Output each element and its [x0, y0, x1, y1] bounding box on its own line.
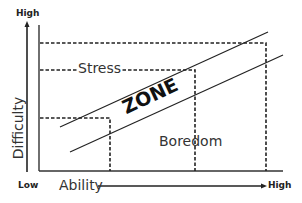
low-level-guide — [40, 118, 110, 171]
y-axis-high-label: High — [16, 8, 39, 18]
x-axis-arrow — [98, 184, 267, 189]
x-axis-high-label: High — [268, 180, 291, 190]
high-level-guide — [40, 43, 266, 171]
dashed-guides — [40, 43, 266, 171]
boredom-region-label: Boredom — [158, 133, 223, 149]
y-axis-title: Difficulty — [10, 93, 26, 163]
x-axis-title: Ability — [59, 177, 103, 193]
stress-region-label: Stress — [77, 60, 122, 76]
x-axis-low-label: Low — [18, 180, 38, 190]
